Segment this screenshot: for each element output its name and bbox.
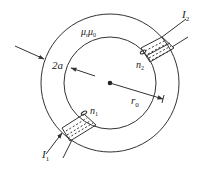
thickness-arrow-inner: [71, 68, 95, 76]
thickness-label: 2a: [52, 59, 64, 71]
lead-i2-a: [162, 19, 186, 37]
radius-label: r0: [131, 94, 139, 109]
current-i2-label: I2: [181, 8, 190, 23]
lead-i2-b: [172, 37, 188, 47]
lead-i1-a: [46, 133, 62, 154]
permeability-label: μrμ0: [80, 26, 96, 38]
winding-n2: [140, 37, 174, 62]
winding-n2-label: n2: [136, 59, 144, 71]
winding-n1-label: n1: [90, 105, 98, 117]
thickness-arrow-outer: [15, 46, 44, 59]
toroid-diagram: μrμ0 2a r0 n2 n1 I2 I1: [0, 0, 202, 170]
lead-i1-b: [63, 140, 72, 158]
